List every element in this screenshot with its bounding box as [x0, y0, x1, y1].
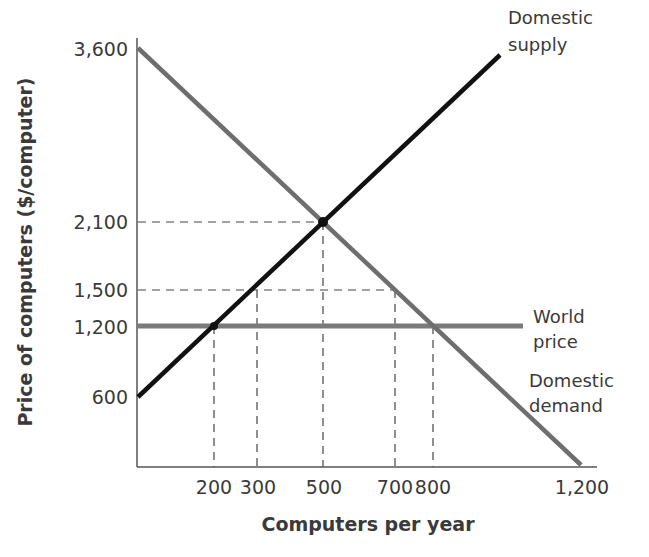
y-tick-1500: 1,500 — [74, 279, 128, 301]
world-price-label-line1: World — [533, 306, 585, 327]
domestic-supply-line — [138, 55, 500, 397]
domestic-demand-line — [138, 48, 581, 465]
y-tick-1200: 1,200 — [74, 316, 128, 338]
supply-world-point — [210, 322, 218, 330]
y-tick-600: 600 — [92, 386, 128, 408]
equilibrium-point — [318, 217, 328, 227]
y-tick-2100: 2,100 — [74, 211, 128, 233]
x-tick-800: 800 — [415, 476, 451, 498]
demand-label-line1: Domestic — [529, 370, 614, 391]
y-tick-3600: 3,600 — [74, 38, 128, 60]
supply-label-line2: supply — [508, 34, 568, 55]
x-axis-label: Computers per year — [261, 513, 475, 535]
demand-label-line2: demand — [529, 395, 603, 416]
supply-label-line1: Domestic — [508, 7, 593, 28]
x-tick-1200: 1,200 — [555, 476, 609, 498]
world-price-label-line2: price — [533, 331, 578, 352]
x-tick-200: 200 — [196, 476, 232, 498]
supply-demand-chart: 3,600 2,100 1,500 1,200 600 200 300 500 … — [0, 0, 649, 557]
y-axis-label: Price of computers ($/computer) — [14, 77, 36, 426]
x-tick-700: 700 — [377, 476, 413, 498]
x-tick-500: 500 — [306, 476, 342, 498]
x-tick-300: 300 — [240, 476, 276, 498]
